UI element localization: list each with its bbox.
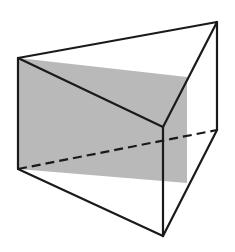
edge-top-right-front bbox=[163, 22, 217, 127]
edge-top-back bbox=[18, 22, 217, 58]
prism-figure bbox=[0, 0, 235, 252]
section-plane bbox=[18, 58, 187, 183]
prism-diagram bbox=[0, 0, 235, 252]
